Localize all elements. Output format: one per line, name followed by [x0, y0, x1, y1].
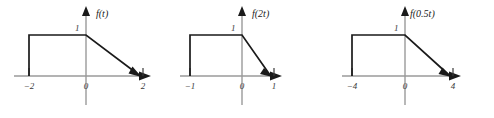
signal-trace: [190, 35, 270, 76]
signal-trace: [29, 35, 139, 76]
plot-panel-f-05t: f(0.5t) 1 −4 0 4: [330, 0, 494, 118]
signal-scaling-figure: f(t) 1 −2 0 2 f(2t) 1 −1 0 1: [0, 0, 494, 118]
plot-panel-f-t: f(t) 1 −2 0 2: [0, 0, 165, 118]
x-tick-label-2: 4: [443, 82, 463, 91]
x-tick-label-2: 1: [264, 82, 284, 91]
x-tick-label-1: 0: [76, 82, 96, 91]
x-axis-arrowhead: [139, 72, 151, 81]
x-axis-arrowhead: [270, 72, 282, 81]
y-axis-arrowhead: [82, 6, 90, 16]
amplitude-label: 1: [75, 24, 80, 33]
x-tick-label-0: −2: [19, 82, 39, 91]
signal-trace: [352, 35, 449, 76]
x-tick-label-2: 2: [133, 82, 153, 91]
amplitude-label: 1: [231, 24, 236, 33]
plot-title-f-05t: f(0.5t): [410, 9, 435, 19]
x-tick-label-0: −4: [342, 82, 362, 91]
x-tick-label-1: 0: [395, 82, 415, 91]
plot-title-f-2t: f(2t): [252, 9, 269, 19]
x-tick-label-1: 0: [232, 82, 252, 91]
plot-title-f-t: f(t): [96, 9, 108, 19]
y-axis-arrowhead: [401, 6, 409, 16]
plot-canvas: [165, 0, 330, 118]
x-tick-label-0: −1: [180, 82, 200, 91]
amplitude-label: 1: [394, 24, 399, 33]
y-axis-arrowhead: [238, 6, 246, 16]
plot-panel-f-2t: f(2t) 1 −1 0 1: [165, 0, 330, 118]
plot-canvas: [0, 0, 165, 118]
x-axis-arrowhead: [449, 72, 461, 81]
